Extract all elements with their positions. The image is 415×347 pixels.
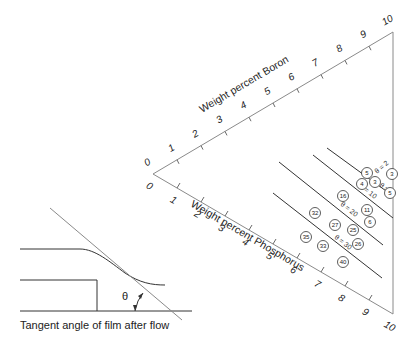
axis-tick bbox=[321, 75, 323, 79]
arrow-head-icon bbox=[138, 293, 143, 299]
tick-label: 10 bbox=[382, 318, 398, 333]
tick-label: 0 bbox=[142, 156, 153, 169]
axis-tick bbox=[177, 160, 179, 164]
svg-text:27: 27 bbox=[332, 222, 339, 228]
arrow-head-icon bbox=[133, 305, 137, 311]
axis-tick bbox=[345, 60, 347, 64]
data-point: 35 bbox=[301, 232, 312, 243]
data-point: 26 bbox=[353, 239, 364, 250]
axis-tick bbox=[273, 103, 275, 107]
tick-label: 7 bbox=[310, 56, 321, 69]
data-point: 32 bbox=[310, 208, 321, 219]
tick-label: 6 bbox=[286, 70, 297, 83]
tick-label: 0 bbox=[145, 180, 156, 193]
axis-tick bbox=[369, 295, 372, 300]
phosphorus-axis-title: Weight percent Phosphorus bbox=[189, 197, 307, 273]
axis-tick bbox=[249, 117, 251, 121]
tick-label: 7 bbox=[313, 278, 324, 291]
data-point: 3 bbox=[387, 169, 398, 180]
diagram-canvas: 012345678910 012345678910 Weight percent… bbox=[0, 0, 415, 347]
svg-text:40: 40 bbox=[340, 259, 347, 265]
inset-caption: Tangent angle of film after flow bbox=[20, 319, 169, 331]
axis-tick bbox=[297, 89, 299, 93]
data-point: 16 bbox=[338, 191, 349, 202]
tick-label: 5 bbox=[262, 85, 273, 98]
tick-label: 4 bbox=[238, 99, 249, 112]
tangent-line bbox=[50, 208, 182, 320]
tick-label: 9 bbox=[358, 28, 369, 41]
tick-label: 1 bbox=[166, 142, 176, 154]
data-point: 11 bbox=[362, 205, 373, 216]
tick-label: 3 bbox=[214, 113, 225, 126]
step-profile bbox=[20, 280, 97, 311]
data-point: 5 bbox=[385, 188, 396, 199]
axis-tick bbox=[345, 281, 348, 286]
tick-label: 1 bbox=[169, 194, 179, 206]
data-point: 27 bbox=[330, 220, 341, 231]
data-point: 33 bbox=[318, 241, 329, 252]
axis-tick bbox=[177, 183, 180, 188]
triangle-frame bbox=[153, 32, 393, 314]
svg-text:16: 16 bbox=[340, 193, 347, 199]
axis-tick bbox=[321, 267, 324, 272]
tick-label: 10 bbox=[380, 12, 396, 27]
axis-tick bbox=[225, 131, 227, 135]
tick-label: 8 bbox=[337, 292, 348, 305]
svg-text:35: 35 bbox=[303, 234, 310, 240]
tick-label: 2 bbox=[189, 127, 201, 140]
data-point: 6 bbox=[365, 217, 376, 228]
tick-label: 9 bbox=[361, 306, 372, 319]
data-point: 4 bbox=[357, 179, 368, 190]
svg-text:11: 11 bbox=[364, 207, 371, 213]
theta-label: θ bbox=[122, 290, 128, 302]
boron-ticks: 012345678910 bbox=[142, 12, 395, 168]
inset-diagram: θ Tangent angle of film after flow bbox=[20, 208, 192, 331]
svg-text:32: 32 bbox=[312, 210, 319, 216]
data-point: 3 bbox=[370, 177, 381, 188]
axis-tick bbox=[369, 46, 371, 50]
tick-label: 8 bbox=[334, 42, 345, 55]
isoline-label: θ = 20 bbox=[339, 200, 359, 218]
svg-text:26: 26 bbox=[355, 241, 362, 247]
data-point: 40 bbox=[338, 257, 349, 268]
data-point: 5 bbox=[362, 168, 373, 179]
data-point: 25 bbox=[348, 225, 359, 236]
axis-tick bbox=[201, 146, 203, 150]
svg-text:25: 25 bbox=[350, 227, 357, 233]
svg-text:33: 33 bbox=[320, 243, 327, 249]
